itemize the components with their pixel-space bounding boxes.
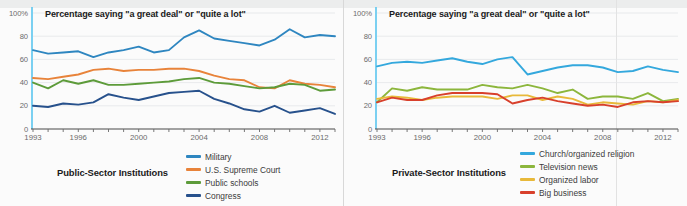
legend-item-television-news[interactable]: Television news	[520, 160, 634, 173]
legend-item-congress[interactable]: Congress	[186, 189, 280, 202]
legend-swatch-congress	[186, 194, 201, 197]
x-tick-label: 2004	[526, 133, 560, 142]
x-tick-label: 1996	[61, 133, 95, 142]
y-tick-label: 20	[344, 101, 372, 110]
legend-label-congress: Congress	[205, 191, 241, 201]
legend-public-sector: Military U.S. Supreme Court Public schoo…	[186, 150, 280, 202]
legend-swatch-public-schools	[186, 181, 201, 184]
x-tick-label: 1993	[16, 133, 50, 142]
chart-panel-private-sector: Percentage saying "a great deal" or "qui…	[344, 0, 687, 206]
legend-swatch-big-business	[520, 191, 535, 194]
line-chart-public-sector	[0, 0, 344, 145]
legend-item-military[interactable]: Military	[186, 150, 280, 163]
chart-title-private-sector: Percentage saying "a great deal" or "qui…	[389, 9, 590, 19]
series-line-military	[33, 29, 335, 57]
legend-item-big-business[interactable]: Big business	[520, 186, 634, 199]
legend-item-public-schools[interactable]: Public schools	[186, 176, 280, 189]
legend-label-military: Military	[205, 152, 232, 162]
chart-title-public-sector: Percentage saying "a great deal" or "qui…	[45, 9, 246, 19]
plot-area-private-sector	[344, 0, 687, 145]
legend-label-big-business: Big business	[539, 188, 587, 198]
x-tick-label: 2000	[122, 133, 156, 142]
x-tick-label: 2008	[243, 133, 277, 142]
y-tick-label: 60	[0, 55, 28, 64]
line-chart-private-sector	[344, 0, 687, 145]
x-tick-label: 2004	[182, 133, 216, 142]
legend-swatch-military	[186, 155, 201, 158]
plot-area-public-sector	[0, 0, 344, 145]
y-tick-label: 20	[0, 101, 28, 110]
legend-private-sector: Church/organized religion Television new…	[520, 147, 634, 199]
figure-root: Percentage saying "a great deal" or "qui…	[0, 0, 687, 206]
legend-label-organized-labor: Organized labor	[539, 175, 599, 185]
legend-swatch-supreme-court	[186, 168, 201, 171]
x-tick-label: 1993	[360, 133, 394, 142]
x-tick-label: 2000	[465, 133, 499, 142]
chart-panel-public-sector: Percentage saying "a great deal" or "qui…	[0, 0, 344, 206]
y-tick-label: 60	[344, 55, 372, 64]
legend-label-supreme-court: U.S. Supreme Court	[205, 165, 280, 175]
legend-label-public-schools: Public schools	[205, 178, 259, 188]
x-tick-label: 2012	[646, 133, 680, 142]
legend-item-supreme-court[interactable]: U.S. Supreme Court	[186, 163, 280, 176]
legend-swatch-church	[520, 152, 535, 155]
x-tick-label: 2012	[303, 133, 337, 142]
legend-swatch-television-news	[520, 165, 535, 168]
y-tick-label: 80	[0, 32, 28, 41]
x-tick-label: 2008	[586, 133, 620, 142]
y-tick-label: 80	[344, 32, 372, 41]
y-tick-label: 100%	[344, 9, 372, 18]
series-line-congress	[33, 91, 335, 114]
y-tick-label: 100%	[0, 9, 28, 18]
legend-label-television-news: Television news	[539, 162, 598, 172]
legend-item-church[interactable]: Church/organized religion	[520, 147, 634, 160]
y-tick-label: 40	[0, 78, 28, 87]
legend-item-organized-labor[interactable]: Organized labor	[520, 173, 634, 186]
legend-swatch-organized-labor	[520, 178, 535, 181]
x-tick-label: 1996	[405, 133, 439, 142]
y-tick-label: 40	[344, 78, 372, 87]
legend-label-church: Church/organized religion	[539, 149, 634, 159]
panel-label-private-sector: Private-Sector Institutions	[392, 167, 506, 178]
panel-label-public-sector: Public-Sector Institutions	[57, 167, 168, 178]
